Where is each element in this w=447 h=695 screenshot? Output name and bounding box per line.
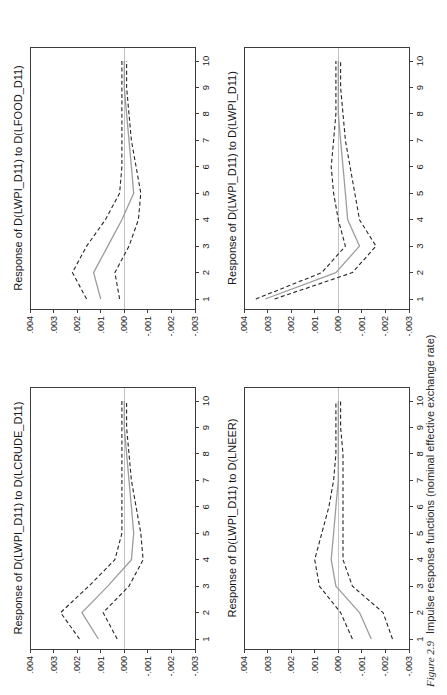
plot-area: .004.003.002.001.000-.001-.002-.00312345… — [239, 47, 425, 337]
x-tick-label: 5 — [414, 191, 425, 196]
x-tick-label: 6 — [200, 164, 211, 169]
response-line — [331, 401, 371, 639]
upper-2se-band-line — [256, 61, 346, 299]
y-tick-label: .002 — [72, 656, 82, 674]
x-tick-label: 6 — [414, 164, 425, 169]
figure-caption-number: Figure 2.9 — [424, 641, 436, 687]
x-tick-label: 4 — [414, 217, 425, 222]
x-tick-label: 7 — [200, 138, 211, 143]
irf-chart-lfood: Response of D(LWPI_D11) to D(LFOOD_D11) … — [8, 37, 212, 355]
x-tick-label: 8 — [200, 451, 211, 456]
y-tick-label: -.003 — [404, 316, 414, 337]
y-tick-label: .000 — [333, 656, 343, 674]
irf-chart-lwpi: Response of D(LWPI_D11) to D(LWPI_D11) .… — [222, 37, 426, 355]
y-tick-label: -.001 — [143, 656, 153, 677]
plot-frame — [30, 387, 195, 649]
y-tick-label: .003 — [49, 656, 59, 674]
x-tick-label: 1 — [414, 296, 425, 301]
y-tick-label: .001 — [310, 316, 320, 334]
x-tick-label: 8 — [200, 111, 211, 116]
upper-2se-band-line — [315, 401, 353, 639]
y-tick-label: .001 — [96, 656, 106, 674]
y-tick-label: .004 — [239, 656, 249, 674]
chart-cell-lcrude: Response of D(LWPI_D11) to D(LCRUDE_D11)… — [8, 377, 212, 695]
x-tick-label: 2 — [414, 270, 425, 275]
chart-title: Response of D(LWPI_D11) to D(LCRUDE_D11) — [12, 402, 24, 635]
x-tick-label: 6 — [200, 504, 211, 509]
plot-frame — [244, 47, 409, 309]
y-tick-label: .004 — [25, 316, 35, 334]
chart-cell-lneer: Response of D(LWPI_D11) to D(LNEER) .004… — [222, 377, 426, 695]
x-tick-label: 9 — [414, 85, 425, 90]
y-tick-label: -.002 — [380, 656, 390, 677]
lower-2se-band-line — [115, 61, 141, 299]
y-tick-label: .004 — [25, 656, 35, 674]
x-tick-label: 3 — [414, 243, 425, 248]
y-tick-label: -.002 — [380, 316, 390, 337]
y-tick-label: -.003 — [190, 656, 200, 677]
y-tick-label: -.001 — [357, 316, 367, 337]
plot-area: .004.003.002.001.000-.001-.002-.00312345… — [25, 387, 211, 677]
x-tick-label: 9 — [200, 425, 211, 430]
figure-caption: Figure 2.9Impulse response functions (no… — [424, 335, 436, 687]
figure-caption-text: Impulse response functions (nominal effe… — [424, 335, 436, 634]
y-tick-label: .003 — [49, 316, 59, 334]
x-tick-label: 7 — [200, 478, 211, 483]
y-tick-label: -.003 — [190, 316, 200, 337]
y-tick-label: -.002 — [166, 316, 176, 337]
response-line — [265, 61, 359, 299]
response-line — [82, 401, 134, 639]
x-tick-label: 4 — [200, 557, 211, 562]
plot-frame — [244, 387, 409, 649]
x-tick-label: 5 — [200, 191, 211, 196]
y-tick-label: .002 — [72, 316, 82, 334]
scanned-figure-page: Response of D(LWPI_D11) to D(LCRUDE_D11)… — [0, 0, 447, 695]
lower-2se-band-line — [103, 401, 143, 639]
y-tick-label: .004 — [239, 316, 249, 334]
y-tick-label: -.001 — [143, 316, 153, 337]
y-tick-label: .000 — [333, 316, 343, 334]
x-tick-label: 5 — [200, 531, 211, 536]
x-tick-label: 1 — [200, 636, 211, 641]
x-tick-label: 8 — [414, 111, 425, 116]
x-tick-label: 1 — [200, 296, 211, 301]
y-tick-label: .002 — [286, 316, 296, 334]
chart-title: Response of D(LWPI_D11) to D(LWPI_D11) — [226, 71, 238, 285]
lower-2se-band-line — [275, 61, 376, 299]
x-tick-label: 3 — [200, 243, 211, 248]
chart-title: Response of D(LWPI_D11) to D(LNEER) — [226, 419, 238, 618]
y-tick-label: -.001 — [357, 656, 367, 677]
x-tick-label: 10 — [200, 396, 211, 407]
x-tick-label: 10 — [414, 56, 425, 67]
x-tick-label: 9 — [200, 85, 211, 90]
lower-2se-band-line — [341, 401, 393, 639]
x-tick-label: 4 — [200, 217, 211, 222]
x-tick-label: 2 — [200, 270, 211, 275]
x-tick-label: 7 — [414, 138, 425, 143]
irf-chart-lcrude: Response of D(LWPI_D11) to D(LCRUDE_D11)… — [8, 377, 212, 695]
plot-area: .004.003.002.001.000-.001-.002-.00312345… — [239, 387, 425, 677]
figure-sheet: Response of D(LWPI_D11) to D(LCRUDE_D11)… — [0, 0, 447, 695]
y-tick-label: -.003 — [404, 656, 414, 677]
x-tick-label: 2 — [200, 610, 211, 615]
upper-2se-band-line — [72, 61, 122, 299]
y-tick-label: -.002 — [166, 656, 176, 677]
response-line — [94, 61, 134, 299]
chart-cell-lfood: Response of D(LWPI_D11) to D(LFOOD_D11) … — [8, 37, 212, 355]
plot-area: .004.003.002.001.000-.001-.002-.00312345… — [25, 47, 211, 337]
x-tick-label: 10 — [200, 56, 211, 67]
chart-title: Response of D(LWPI_D11) to D(LFOOD_D11) — [12, 65, 24, 291]
y-tick-label: .003 — [263, 656, 273, 674]
y-tick-label: .001 — [96, 316, 106, 334]
y-tick-label: .000 — [119, 656, 129, 674]
irf-chart-lneer: Response of D(LWPI_D11) to D(LNEER) .004… — [222, 377, 426, 695]
plot-frame — [30, 47, 195, 309]
y-tick-label: .000 — [119, 316, 129, 334]
x-tick-label: 3 — [200, 583, 211, 588]
y-tick-label: .002 — [286, 656, 296, 674]
y-tick-label: .003 — [263, 316, 273, 334]
chart-cell-lwpi: Response of D(LWPI_D11) to D(LWPI_D11) .… — [222, 37, 426, 355]
y-tick-label: .001 — [310, 656, 320, 674]
